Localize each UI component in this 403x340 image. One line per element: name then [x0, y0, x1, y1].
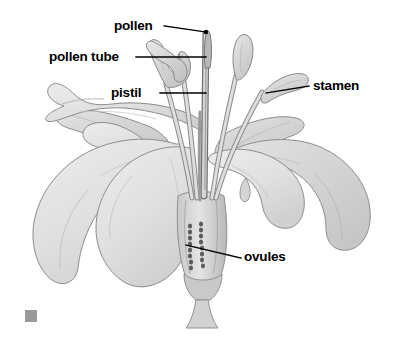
anther-center-top [204, 31, 211, 68]
diagram-page: pollen pollen tube pistil stamen ovules [0, 0, 403, 340]
flower-stem [184, 274, 222, 328]
label-pistil: pistil [111, 86, 141, 100]
label-pollen-tube: pollen tube [49, 50, 119, 64]
anther-right-tall [233, 35, 253, 80]
label-stamen: stamen [313, 79, 359, 93]
leader-pollen-dot [204, 30, 208, 34]
label-pollen: pollen [114, 19, 153, 33]
corner-square-marker [25, 310, 37, 322]
label-ovules: ovules [244, 250, 286, 264]
leader-pollen [164, 26, 206, 32]
anther-right-stamen [261, 73, 308, 103]
